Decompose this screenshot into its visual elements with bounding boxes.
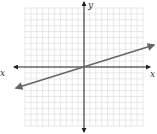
x-axis-label-left: x — [0, 68, 5, 78]
x-axis-label-right: x — [150, 69, 155, 79]
y-axis-label: y — [87, 0, 94, 10]
coordinate-plane: x x y — [0, 0, 157, 134]
